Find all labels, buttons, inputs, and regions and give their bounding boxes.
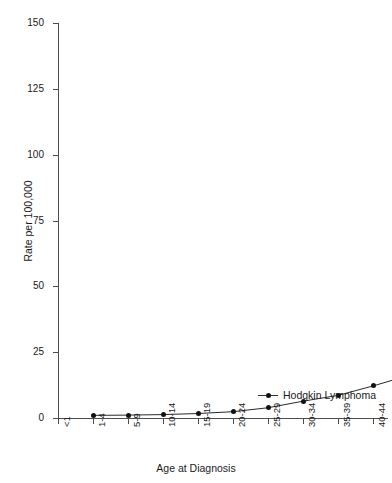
x-axis-title: Age at Diagnosis xyxy=(0,462,392,474)
x-tick xyxy=(233,419,234,424)
data-point-marker xyxy=(231,409,236,414)
x-tick xyxy=(198,419,199,424)
series-line-hodgkin-lymphoma xyxy=(58,23,388,418)
data-point-marker xyxy=(91,413,96,418)
x-tick xyxy=(303,419,304,424)
y-tick-label: 25 xyxy=(0,347,44,357)
legend-item-label: Hodgkin Lymphoma xyxy=(283,389,376,401)
y-tick-label: 125 xyxy=(0,84,44,94)
filled-circle-marker-icon xyxy=(258,391,278,400)
x-tick xyxy=(58,419,59,424)
y-tick-label: 0 xyxy=(0,413,44,423)
data-point-marker xyxy=(266,405,271,410)
x-tick xyxy=(268,419,269,424)
chart-legend: Hodgkin Lymphoma xyxy=(258,389,376,401)
plot-area xyxy=(58,23,388,418)
data-point-marker xyxy=(161,412,166,417)
x-tick xyxy=(163,419,164,424)
x-tick xyxy=(373,419,374,424)
x-tick xyxy=(338,419,339,424)
x-tick xyxy=(128,419,129,424)
y-tick-label: 150 xyxy=(0,18,44,28)
data-point-marker xyxy=(196,411,201,416)
chart-figure: 0255075100125150 <11-45-910-1415-1920-24… xyxy=(0,0,392,483)
data-point-marker xyxy=(126,413,131,418)
x-tick xyxy=(93,419,94,424)
y-axis-title: Rate per 100,000 xyxy=(22,141,34,301)
